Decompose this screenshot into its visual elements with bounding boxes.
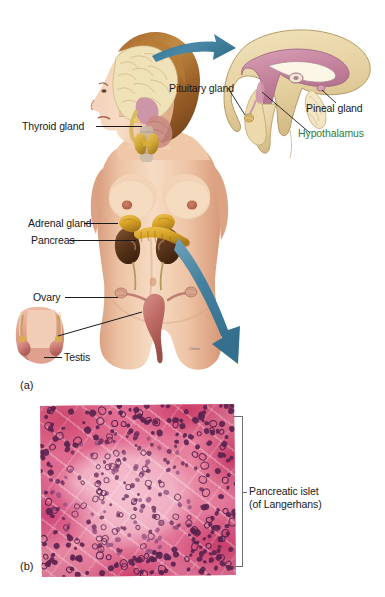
panel-b-tag: (b) [20, 560, 33, 572]
left-areola [122, 200, 132, 209]
left-epididymis [19, 336, 26, 342]
right-ovary [185, 287, 197, 297]
label-pancreas: Pancreas [31, 234, 75, 246]
bracket-tick [242, 492, 247, 493]
navel [150, 278, 157, 287]
pancreas-micrograph-image [40, 404, 236, 577]
thyroid-isthmus [143, 141, 151, 146]
inset-pituitary-gland [244, 114, 253, 122]
islet-label-line1: Pancreatic islet [249, 485, 319, 497]
panel-b-micrograph: Pancreatic islet (of Langerhans) (b) [0, 398, 385, 597]
label-pituitary-gland: Pituitary gland [169, 82, 234, 94]
pancreatic-islet-bracket [233, 416, 243, 567]
inset-pineal-gland [317, 85, 325, 91]
label-thyroid-gland: Thyroid gland [22, 120, 84, 132]
eye [101, 89, 106, 92]
thyroid-leader-line [96, 126, 142, 127]
right-areola [187, 200, 197, 209]
islet-label-line2: (of Langerhans) [249, 498, 322, 510]
pancreas-leader-line [69, 240, 136, 241]
ovary-leader-line [65, 297, 118, 298]
testis-leader-line [44, 357, 62, 358]
panel-a-tag: (a) [20, 379, 33, 391]
label-hypothalamus: Hypothalamus [298, 127, 364, 139]
inset-hypothalamus [256, 82, 265, 104]
micrograph-vignette [40, 404, 236, 577]
label-pineal-gland: Pineal gland [306, 102, 363, 114]
scrotum-testis-inset [16, 307, 64, 364]
right-epididymis [55, 336, 62, 342]
photo-credit: Chelex [189, 347, 200, 351]
endocrine-system-figure: Thyroid gland Pituitary gland Pineal gla… [0, 0, 385, 597]
body-illustration-svg [0, 0, 385, 398]
label-ovary: Ovary [33, 291, 61, 303]
label-pancreatic-islet: Pancreatic islet (of Langerhans) [249, 485, 369, 510]
panel-a-body-illustration: Thyroid gland Pituitary gland Pineal gla… [0, 0, 385, 398]
label-testis: Testis [64, 351, 90, 363]
pituitary-in-head [133, 117, 139, 122]
label-adrenal-gland: Adrenal gland [28, 217, 92, 229]
